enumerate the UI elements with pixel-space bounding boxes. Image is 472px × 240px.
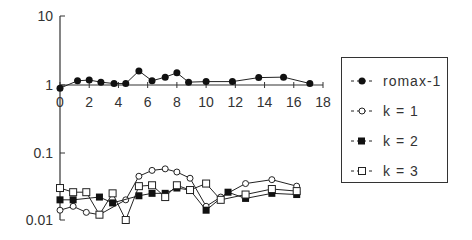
legend-item-k1: k = 1 <box>350 102 419 120</box>
x-tick-label: 16 <box>286 94 302 110</box>
legend-item-k3: k = 3 <box>350 162 419 180</box>
y-tick-label: 0.01 <box>26 212 53 228</box>
legend-item-romax-1: romax-1 <box>350 72 441 90</box>
legend-label: k = 1 <box>383 103 419 119</box>
y-tick-label: 10 <box>37 8 53 24</box>
legend-label: romax-1 <box>383 73 441 89</box>
x-tick-label: 10 <box>198 94 214 110</box>
x-tick-label: 18 <box>315 94 331 110</box>
legend-item-k2: k = 2 <box>350 132 419 150</box>
x-tick-label: 0 <box>56 94 64 110</box>
x-tick-label: 4 <box>115 94 123 110</box>
chart-series <box>57 67 314 223</box>
legend-label: k = 2 <box>383 133 419 149</box>
x-tick-label: 8 <box>173 94 181 110</box>
chart-legend: romax-1 k = 1 k = 2 k = 3 <box>341 57 448 183</box>
x-tick-label: 2 <box>85 94 93 110</box>
x-tick-label: 14 <box>257 94 273 110</box>
y-tick-label: 0.1 <box>34 145 54 161</box>
open-square-marker-icon <box>350 166 374 176</box>
x-tick-label: 6 <box>144 94 152 110</box>
x-tick-label: 12 <box>228 94 244 110</box>
open-circle-marker-icon <box>350 106 374 116</box>
legend-label: k = 3 <box>383 163 419 179</box>
filled-circle-marker-icon <box>350 76 374 86</box>
filled-square-marker-icon <box>350 136 374 146</box>
y-tick-label: 1 <box>45 77 53 93</box>
